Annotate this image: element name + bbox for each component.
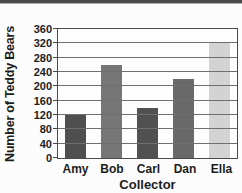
x-axis-tick-labels: AmyBobCarlDanElla [57,162,238,176]
top-border-strip [0,0,242,4]
x-axis-title: Collector [57,177,238,192]
plot-area [57,28,238,159]
y-tick-label-280: 280 [20,52,52,64]
y-tick-label-40: 40 [20,138,52,150]
bar-carl [137,108,158,158]
x-tick-label-bob: Bob [100,162,123,176]
x-tick-label-carl: Carl [137,162,160,176]
chart-canvas: Number of Teddy Bears 040801201602002402… [0,0,242,193]
x-tick-label-dan: Dan [174,162,197,176]
y-tick-label-0: 0 [20,152,52,164]
y-tick-label-80: 80 [20,123,52,135]
y-tick-label-160: 160 [20,95,52,107]
y-tick-label-240: 240 [20,66,52,78]
y-tick-label-360: 360 [20,23,52,35]
bar-dan [173,79,194,158]
x-tick-label-amy: Amy [62,162,88,176]
y-tick-label-200: 200 [20,80,52,92]
bar-group [58,29,237,158]
y-axis-title-text: Number of Teddy Bears [3,26,17,162]
y-tick-label-320: 320 [20,37,52,49]
y-tick-label-120: 120 [20,109,52,121]
y-axis-title: Number of Teddy Bears [2,28,18,159]
bar-amy [65,115,86,158]
x-tick-label-ella: Ella [211,162,232,176]
bar-bob [101,65,122,158]
bar-ella [209,43,230,158]
y-axis-tick-labels: 04080120160200240280320360 [20,28,52,159]
